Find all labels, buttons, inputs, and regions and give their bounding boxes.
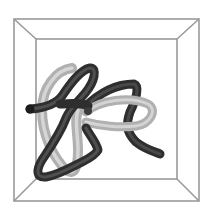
light-tube-right-loop <box>86 100 152 127</box>
edge-top-left <box>14 19 36 39</box>
knot-in-box-figure <box>0 0 216 213</box>
edge-bottom-left <box>14 179 36 201</box>
tube-junction-node <box>84 107 92 115</box>
edge-top-right <box>177 19 199 39</box>
edge-bottom-right <box>177 179 199 201</box>
tube-end-cap <box>26 105 35 114</box>
